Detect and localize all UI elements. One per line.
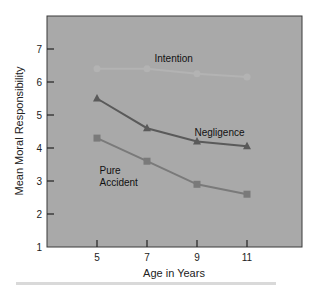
series-annotation: Negligence bbox=[195, 127, 245, 138]
y-tick-label: 1 bbox=[36, 242, 42, 253]
series-annotation: Accident bbox=[100, 177, 139, 188]
circle-marker bbox=[94, 65, 101, 72]
y-tick-label: 2 bbox=[36, 209, 42, 220]
y-tick-label: 5 bbox=[36, 110, 42, 121]
square-marker bbox=[144, 158, 151, 165]
y-tick-label: 4 bbox=[36, 143, 42, 154]
line-chart: 1234567 57911 IntentionNegligencePureAcc… bbox=[0, 0, 317, 289]
x-tick-label: 11 bbox=[242, 252, 253, 263]
x-tick-label: 7 bbox=[144, 252, 150, 263]
figure-caption-blurred bbox=[16, 282, 276, 285]
square-marker bbox=[244, 191, 251, 198]
plot-area bbox=[47, 16, 302, 247]
series-annotation: Intention bbox=[155, 53, 193, 64]
circle-marker bbox=[144, 65, 151, 72]
circle-marker bbox=[194, 70, 201, 77]
x-tick-label: 5 bbox=[94, 252, 100, 263]
x-tick-label: 9 bbox=[194, 252, 200, 263]
y-tick-label: 6 bbox=[36, 77, 42, 88]
y-tick-label: 7 bbox=[36, 44, 42, 55]
y-axis-title: Mean Moral Responsibility bbox=[13, 66, 25, 195]
circle-marker bbox=[244, 74, 251, 81]
x-axis-title: Age in Years bbox=[143, 267, 205, 279]
square-marker bbox=[94, 135, 101, 142]
square-marker bbox=[194, 181, 201, 188]
y-tick-label: 3 bbox=[36, 176, 42, 187]
series-annotation: Pure bbox=[100, 165, 122, 176]
